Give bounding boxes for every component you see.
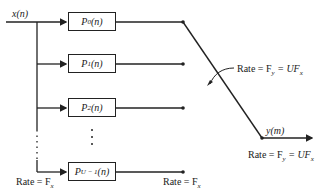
- branch-rate-label: Rate = Fx: [163, 177, 201, 190]
- input-label: x(n): [12, 9, 28, 19]
- input-rate-label: Rate = Fx: [16, 177, 54, 190]
- filter-arg: (n): [91, 16, 103, 27]
- commutator-rate-label: Rate = Fy = UFx: [237, 64, 303, 77]
- filter-box-2: P2(n): [68, 98, 116, 117]
- rate-sub: x: [198, 182, 201, 190]
- filter-box-0: P0(n): [68, 12, 116, 31]
- filter-sub: U − 1: [81, 168, 98, 176]
- output-label: y(m): [266, 126, 284, 136]
- filter-box-1: P1(n): [68, 54, 116, 73]
- filter-arg: (n): [98, 166, 110, 177]
- filter-arg: (n): [91, 58, 103, 69]
- rate-eq: = UF: [286, 149, 311, 160]
- rate-text: Rate = F: [16, 176, 51, 187]
- rate-eq: = UF: [275, 63, 300, 74]
- rate-text: Rate = F: [163, 176, 198, 187]
- rate-eq-sub: x: [300, 69, 303, 77]
- rate-text: Rate = F: [248, 149, 283, 160]
- rate-text: Rate = F: [237, 63, 272, 74]
- rate-eq-sub: x: [311, 155, 314, 163]
- filter-arg: (n): [91, 102, 103, 113]
- rate-sub: x: [51, 182, 54, 190]
- filter-box-3: PU − 1(n): [68, 162, 116, 181]
- output-rate-label: Rate = Fy = UFx: [248, 150, 314, 163]
